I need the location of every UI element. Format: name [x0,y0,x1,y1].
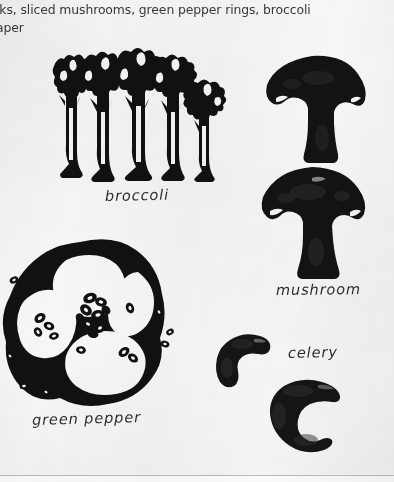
caption-text-block: lks, sliced mushrooms, green pepper ring… [0,0,394,37]
label-celery: celery [288,344,338,361]
page-edge-line [0,475,394,476]
caption-line-2: aper [0,19,394,37]
broccoli-illustration [52,48,227,188]
label-mushroom: mushroom [276,281,361,298]
celery-slice-illustration-bottom [262,378,346,454]
label-broccoli: broccoli [105,187,169,204]
label-green-pepper: green pepper [32,409,141,428]
mushroom-slice-illustration-top [252,50,372,168]
mushroom-slice-illustration-bottom [250,162,372,282]
scanned-page: lks, sliced mushrooms, green pepper ring… [0,0,394,482]
green-pepper-ring-illustration [2,236,180,414]
page-bottom-margin [0,476,394,482]
caption-line-1: lks, sliced mushrooms, green pepper ring… [0,1,394,19]
